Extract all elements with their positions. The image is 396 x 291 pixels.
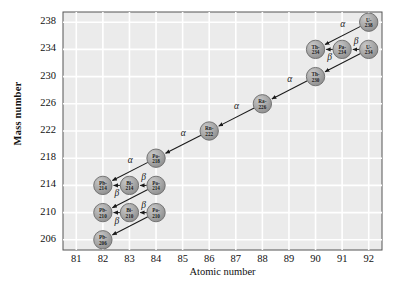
x-tick-81: 81: [65, 253, 87, 264]
svg-text:214: 214: [99, 185, 107, 191]
y-tick-222: 222: [22, 124, 56, 135]
svg-text:β: β: [114, 216, 120, 226]
svg-text:β: β: [353, 36, 359, 46]
decay-series-figure: Mass number αββαααααββαββα U-238Th-234Pa…: [0, 0, 396, 291]
x-tick-90: 90: [305, 253, 327, 264]
y-tick-226: 226: [22, 97, 56, 108]
svg-text:230: 230: [312, 77, 320, 83]
y-tick-210: 210: [22, 206, 56, 217]
y-tick-230: 230: [22, 70, 56, 81]
svg-text:234: 234: [365, 49, 373, 55]
svg-text:β: β: [140, 172, 146, 182]
nuclide-node-bi-214[interactable]: Bi-214: [120, 176, 138, 194]
svg-text:238: 238: [365, 22, 373, 28]
svg-text:214: 214: [152, 185, 160, 191]
nuclide-node-po-214[interactable]: Po-214: [147, 176, 165, 194]
svg-text:234: 234: [312, 49, 320, 55]
svg-text:218: 218: [152, 158, 160, 164]
nuclide-node-u-238[interactable]: U-238: [360, 13, 378, 31]
x-tick-89: 89: [278, 253, 300, 264]
x-axis-label: Atomic number: [63, 266, 382, 277]
nuclide-node-po-218[interactable]: Po-218: [147, 149, 165, 167]
x-tick-83: 83: [118, 253, 140, 264]
nuclide-node-po-210[interactable]: Po-210: [147, 203, 165, 221]
nuclide-node-ra-226[interactable]: Ra-226: [253, 95, 271, 113]
nuclide-node-pa-234[interactable]: Pa-234: [333, 40, 351, 58]
svg-text:β: β: [114, 188, 120, 198]
nuclide-node-pb-210[interactable]: Pb-210: [94, 203, 112, 221]
nuclide-node-pb-206[interactable]: Pb-206: [94, 231, 112, 249]
nuclide-node-rn-222[interactable]: Rn-222: [200, 122, 218, 140]
x-tick-92: 92: [358, 253, 380, 264]
decay-chain-plot: αββαααααββαββα U-238Th-234Pa-234U-234Th-…: [0, 0, 396, 291]
y-tick-214: 214: [22, 178, 56, 189]
x-tick-88: 88: [251, 253, 273, 264]
nuclide-node-th-234[interactable]: Th-234: [306, 40, 324, 58]
svg-text:226: 226: [258, 104, 266, 110]
nuclide-node-pb-214[interactable]: Pb-214: [94, 176, 112, 194]
nuclide-node-th-230[interactable]: Th-230: [306, 67, 324, 85]
x-tick-82: 82: [92, 253, 114, 264]
x-tick-91: 91: [331, 253, 353, 264]
svg-text:206: 206: [99, 240, 107, 246]
y-tick-238: 238: [22, 15, 56, 26]
svg-text:β: β: [140, 200, 146, 210]
y-tick-234: 234: [22, 42, 56, 53]
svg-text:210: 210: [99, 213, 107, 219]
svg-text:210: 210: [126, 213, 134, 219]
y-tick-218: 218: [22, 151, 56, 162]
nuclide-node-u-234[interactable]: U-234: [360, 40, 378, 58]
x-tick-85: 85: [172, 253, 194, 264]
x-tick-87: 87: [225, 253, 247, 264]
x-tick-84: 84: [145, 253, 167, 264]
svg-text:β: β: [326, 52, 332, 62]
svg-text:210: 210: [152, 213, 160, 219]
x-tick-86: 86: [198, 253, 220, 264]
svg-text:234: 234: [338, 49, 346, 55]
nuclide-node-bi-210[interactable]: Bi-210: [120, 203, 138, 221]
y-tick-206: 206: [22, 233, 56, 244]
svg-text:214: 214: [126, 185, 134, 191]
svg-text:222: 222: [205, 131, 213, 137]
